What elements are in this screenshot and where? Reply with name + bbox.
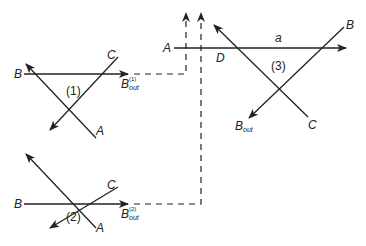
label-d-3: D: [216, 51, 225, 65]
triangle-2-id: (2): [66, 210, 81, 224]
label-c-1: C: [107, 48, 116, 62]
diagram-canvas: B C A (1) B out (1) B C A (2) B out (2): [0, 0, 366, 246]
label-a-1: A: [95, 124, 104, 138]
label-b-1: B: [14, 67, 22, 81]
dashed-route-1: [134, 20, 186, 74]
label-c-3: C: [308, 118, 317, 132]
line-a-1: [26, 64, 96, 138]
label-c-2: C: [107, 178, 116, 192]
svg-text:out: out: [129, 214, 140, 221]
svg-text:B: B: [121, 77, 129, 91]
triangle-2: B C A (2) B out (2): [14, 154, 140, 235]
output-label-2: B out (2): [121, 206, 140, 221]
arrow-up-icon: [182, 12, 190, 22]
line-c-2: [50, 187, 118, 228]
output-label-3: B out: [235, 119, 254, 133]
svg-text:(1): (1): [129, 76, 136, 82]
svg-text:out: out: [129, 84, 140, 91]
line-c-1: [50, 57, 118, 130]
label-b-2: B: [14, 197, 22, 211]
label-a-lower-3: a: [275, 31, 282, 45]
triangle-1-id: (1): [66, 84, 81, 98]
output-label-1: B out (1): [121, 76, 140, 91]
svg-text:(2): (2): [129, 206, 136, 212]
arrow-up-icon: [197, 12, 205, 22]
label-a-3: A: [162, 41, 171, 55]
triangle-3: A B C D a (3) B out: [162, 18, 354, 133]
label-a-2: A: [95, 221, 104, 235]
triangle-1: B C A (1) B out (1): [14, 48, 140, 138]
line-c-3: [214, 25, 308, 117]
svg-text:out: out: [243, 126, 254, 133]
label-b-3: B: [346, 18, 354, 32]
svg-text:B: B: [235, 119, 243, 133]
svg-text:B: B: [121, 207, 129, 221]
triangle-3-id: (3): [271, 59, 286, 73]
line-a-2: [26, 154, 96, 228]
